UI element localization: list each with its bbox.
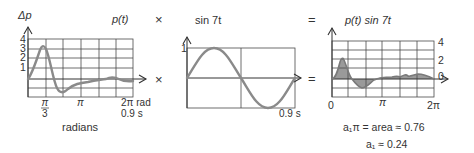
- product-coefficient-result: a₁ ≈ 0.24: [366, 138, 408, 150]
- product-y-ticks: 4 2 0: [438, 36, 444, 82]
- svg-text:2π: 2π: [427, 99, 440, 111]
- pressure-title: p(t): [111, 13, 129, 25]
- product-chart: p(t) sin 7t 4 2 0 0 π 2π a₁π = area ≈ 0.…: [328, 14, 448, 150]
- pressure-x-end-time: 0.9 s: [121, 108, 143, 119]
- svg-text:2: 2: [438, 54, 444, 66]
- sine-chart: sin 7t 1 0.9 s: [181, 14, 301, 119]
- sine-title: sin 7t: [195, 14, 221, 26]
- svg-text:0: 0: [438, 70, 444, 82]
- svg-text:1: 1: [20, 61, 26, 73]
- sine-y-tick: 1: [181, 42, 187, 54]
- svg-text:π: π: [42, 97, 49, 108]
- product-title: p(t) sin 7t: [344, 14, 392, 26]
- svg-text:3: 3: [42, 108, 48, 119]
- pressure-chart: Δp 4 3 2 1 p(t) π 3 π 2π rad 0.9 s radia…: [17, 9, 151, 133]
- svg-text:0: 0: [328, 99, 334, 111]
- svg-text:π: π: [77, 97, 84, 108]
- times-operator-middle: ×: [155, 72, 163, 87]
- pressure-x-ticks: π 3 π 2π rad 0.9 s: [41, 97, 151, 119]
- fourier-coefficient-diagram: Δp 4 3 2 1 p(t) π 3 π 2π rad 0.9 s radia…: [0, 0, 474, 153]
- sine-x-end-time: 0.9 s: [279, 108, 301, 119]
- equals-operator-middle: =: [308, 71, 316, 86]
- pressure-y-label: Δp: [17, 9, 32, 21]
- pressure-x-caption: radians: [62, 121, 99, 133]
- pressure-grid: [28, 39, 133, 97]
- pressure-y-ticks: 4 3 2 1: [20, 33, 26, 73]
- product-area-result: a₁π = area ≈ 0.76: [343, 121, 425, 133]
- product-x-ticks: 0 π 2π: [328, 96, 440, 111]
- product-area-fill: [332, 58, 434, 88]
- pressure-curve: [28, 46, 133, 92]
- equals-operator-top: =: [308, 12, 316, 27]
- times-operator-top: ×: [155, 12, 163, 27]
- pressure-x-end-rad: 2π rad: [121, 97, 151, 108]
- svg-text:π: π: [379, 96, 387, 108]
- svg-text:4: 4: [438, 36, 444, 48]
